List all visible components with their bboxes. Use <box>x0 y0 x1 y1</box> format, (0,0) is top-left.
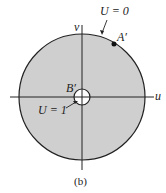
caption: (b) <box>74 175 87 188</box>
inner-boundary-label: U = 1 <box>38 103 67 117</box>
u-axis-label: u <box>155 89 161 103</box>
point-b-label: B′ <box>66 81 76 95</box>
outer-arrowhead <box>100 30 104 35</box>
annulus-diagram: v u U = 0 A′ B′ U = 1 (b) <box>0 0 166 193</box>
point-a <box>112 42 117 47</box>
outer-boundary-label: U = 0 <box>100 4 129 18</box>
v-axis-label: v <box>74 20 80 34</box>
point-a-label: A′ <box>116 30 127 44</box>
